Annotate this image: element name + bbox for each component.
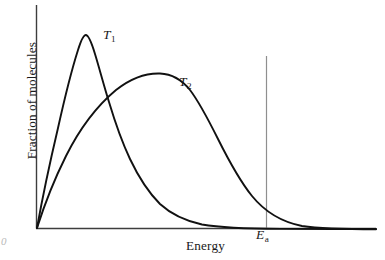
curve-label-t2-symbol: T <box>179 74 187 89</box>
x-axis-label: Energy <box>186 239 225 252</box>
plot-canvas <box>0 0 385 260</box>
activation-energy-label: Ea <box>256 228 268 242</box>
activation-energy-symbol: E <box>256 227 264 242</box>
y-axis-label: Fraction of molecules <box>25 21 38 181</box>
curve-t1 <box>37 35 376 229</box>
curve-t2 <box>37 73 376 229</box>
curve-label-t1-symbol: T <box>103 27 111 42</box>
figure-corner-mark: 0 <box>1 236 7 247</box>
curve-label-t2: T2 <box>179 75 191 89</box>
curve-label-t2-subscript: 2 <box>187 81 192 91</box>
kinetic-energy-distribution-figure: Fraction of molecules Energy T1 T2 Ea 0 <box>0 0 385 260</box>
curve-label-t1-subscript: 1 <box>111 34 116 44</box>
activation-energy-subscript: a <box>265 234 269 244</box>
curve-label-t1: T1 <box>103 28 115 42</box>
